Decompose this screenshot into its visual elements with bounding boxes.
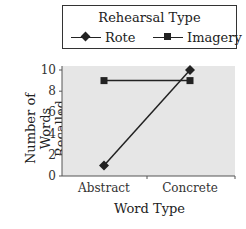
square-marker-icon <box>187 77 194 84</box>
y-tick-label: 6 <box>48 105 56 119</box>
y-tick-label: 10 <box>41 63 56 77</box>
y-tick-label: 4 <box>48 127 56 141</box>
x-tick-label: Abstract <box>77 181 130 195</box>
y-tick-label: 2 <box>48 148 56 162</box>
x-tick-label: Concrete <box>162 181 218 195</box>
plot-area: 0246810AbstractConcrete <box>0 0 246 229</box>
x-axis-title: Word Type <box>62 201 237 216</box>
square-marker-icon <box>101 77 108 84</box>
y-tick-label: 0 <box>48 169 56 183</box>
y-tick-label: 8 <box>48 84 56 98</box>
